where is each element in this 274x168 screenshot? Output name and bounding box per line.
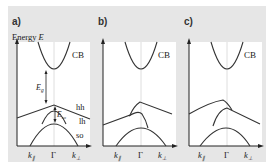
x-tick-gamma: Γ	[51, 150, 56, 160]
y-axis-arrow-icon	[101, 38, 105, 44]
x-tick-k-perp: k⊥	[72, 150, 81, 161]
lh-label: lh	[79, 116, 86, 126]
x-tick-k-par: k∥	[28, 150, 36, 162]
panel-b: b) CB k∥ Γ k⊥	[94, 6, 180, 162]
so-label: so	[76, 130, 84, 140]
band-diagram-b: CB k∥ Γ k⊥	[94, 6, 180, 162]
cb-label: CB	[158, 50, 170, 60]
x-tick-k-par: k∥	[114, 150, 122, 162]
x-tick-gamma: Γ	[138, 150, 143, 160]
band-diagram-a: CB Eg hh lh Eso so k∥ Γ k⊥	[8, 6, 94, 162]
x-tick-k-perp: k⊥	[158, 150, 167, 161]
x-tick-k-perp: k⊥	[244, 150, 253, 161]
figure-frame: a) Energy E CB Eg hh lh	[8, 6, 266, 162]
y-axis-arrow-icon	[15, 38, 19, 44]
panel-a: a) Energy E CB Eg hh lh	[8, 6, 94, 162]
x-tick-gamma: Γ	[224, 150, 229, 160]
cb-label: CB	[72, 50, 84, 60]
panel-c: c) CB k∥ Γ k⊥	[180, 6, 266, 162]
band-diagram-c: CB k∥ Γ k⊥	[180, 6, 266, 162]
hh-label: hh	[76, 102, 85, 112]
x-tick-k-par: k∥	[198, 150, 206, 162]
cb-label: CB	[244, 50, 256, 60]
y-axis-arrow-icon	[187, 38, 191, 44]
